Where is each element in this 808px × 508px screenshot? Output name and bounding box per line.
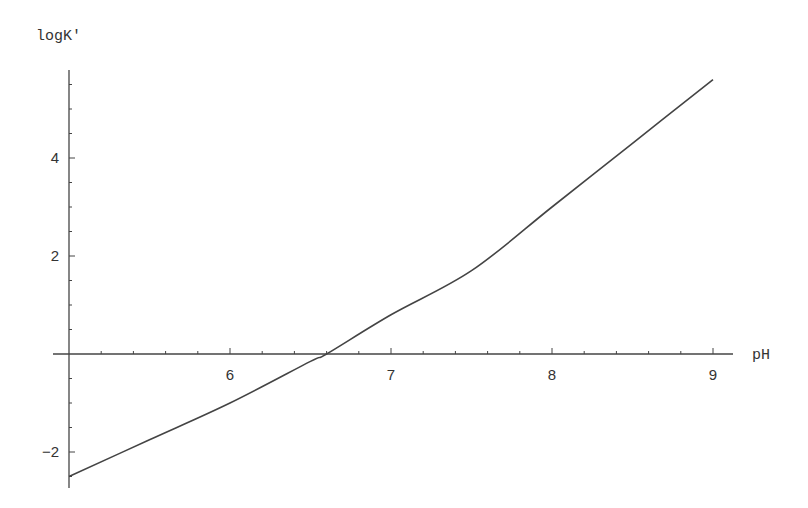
y-tick-label: −2	[42, 443, 59, 460]
axes: 6789−224	[42, 70, 733, 488]
x-tick-label: 9	[709, 366, 717, 383]
data-line	[69, 80, 713, 477]
y-axis-title: logK'	[36, 28, 81, 45]
y-tick-label: 4	[51, 149, 59, 166]
x-axis-title: pH	[752, 347, 770, 364]
x-tick-label: 6	[226, 366, 234, 383]
y-tick-label: 2	[51, 247, 59, 264]
x-tick-label: 7	[387, 366, 395, 383]
chart: 6789−224 logK' pH	[0, 0, 808, 508]
x-tick-label: 8	[548, 366, 556, 383]
